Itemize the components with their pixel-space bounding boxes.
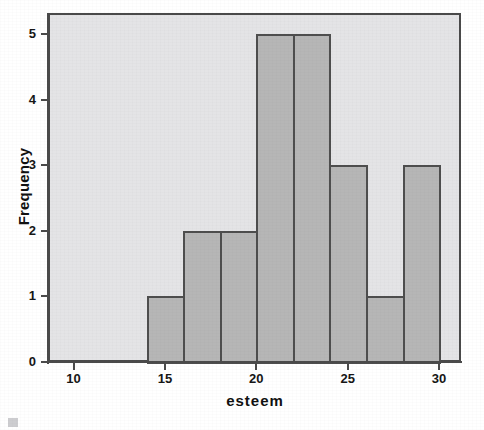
y-axis-tick-label: 1 <box>14 290 36 302</box>
x-axis-tick <box>438 362 440 370</box>
y-axis-tick <box>41 33 48 35</box>
x-axis-title: esteem <box>140 392 370 409</box>
histogram-bar <box>147 296 186 364</box>
histogram-bar <box>220 231 259 364</box>
plot-area <box>48 13 461 362</box>
histogram-bar <box>329 165 368 364</box>
histogram-chart: 012345 1015202530 Frequency esteem <box>0 0 484 430</box>
x-axis-tick-label: 25 <box>333 372 363 386</box>
y-axis-tick-label: 4 <box>14 94 36 106</box>
y-axis-tick-label: 5 <box>14 28 36 40</box>
y-axis-tick <box>41 361 48 363</box>
histogram-bar <box>256 34 295 364</box>
y-axis-line <box>47 13 49 364</box>
y-axis-tick <box>41 164 48 166</box>
x-axis-tick-label: 30 <box>424 372 454 386</box>
y-axis-title: Frequency <box>15 117 32 257</box>
scan-smudge-artifact <box>8 418 18 427</box>
x-axis-tick <box>73 362 75 370</box>
histogram-bar <box>366 296 405 364</box>
x-axis-tick <box>255 362 257 370</box>
y-axis-tick <box>41 295 48 297</box>
x-axis-tick <box>164 362 166 370</box>
x-axis-tick <box>347 362 349 370</box>
x-axis-tick-label: 20 <box>241 372 271 386</box>
histogram-bar <box>183 231 222 364</box>
histogram-bar <box>403 165 442 364</box>
x-axis-tick-label: 15 <box>150 372 180 386</box>
y-axis-tick-label: 0 <box>14 356 36 368</box>
histogram-bar <box>293 34 332 364</box>
y-axis-tick <box>41 230 48 232</box>
x-axis-tick-label: 10 <box>59 372 89 386</box>
y-axis-tick <box>41 99 48 101</box>
